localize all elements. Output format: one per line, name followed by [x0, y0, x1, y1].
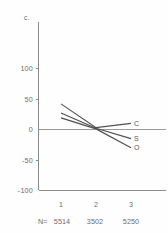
n-value-1: 5514	[54, 217, 70, 226]
y-tick-label-0: 0	[29, 125, 33, 134]
series-label-S: S	[134, 135, 139, 142]
x-tick-label-3: 3	[129, 200, 133, 209]
n-value-3: 5250	[123, 217, 139, 226]
y-tick-label-minus50: -50	[22, 156, 33, 165]
n-prefix-label: N=	[38, 217, 48, 226]
series-line-S	[61, 113, 131, 139]
corner-label: c.	[24, 14, 30, 21]
series-label-C: C	[134, 120, 139, 127]
y-tick-label-50: 50	[25, 95, 33, 104]
n-value-2: 3502	[87, 217, 103, 226]
series-line-C	[61, 104, 131, 128]
y-tick-label-minus100: -100	[18, 186, 33, 195]
line-chart-plot: c. 100 50 0 -50 -100 C S O 1 2 3 N= 5514…	[0, 0, 168, 233]
y-tick-label-100: 100	[20, 64, 33, 73]
x-tick-label-2: 2	[94, 200, 98, 209]
series-line-O	[61, 118, 131, 148]
x-tick-label-1: 1	[59, 200, 63, 209]
chart-figure: c. 100 50 0 -50 -100 C S O 1 2 3 N= 5514…	[0, 0, 168, 233]
series-label-O: O	[134, 144, 140, 151]
